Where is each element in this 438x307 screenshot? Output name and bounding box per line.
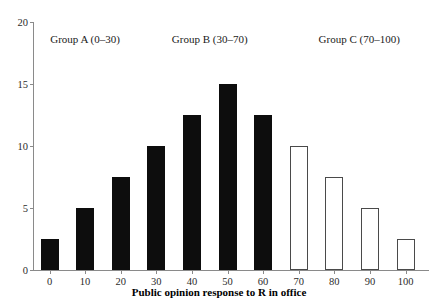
x-tick-mark [334, 270, 335, 274]
y-tick-label: 20 [18, 17, 34, 28]
bar-chart: 05101520 0102030405060708090100 Group A … [0, 0, 438, 307]
x-tick-mark [192, 270, 193, 274]
bar-50 [219, 84, 237, 270]
y-tick-label: 5 [23, 203, 33, 214]
y-tick-label: 15 [18, 79, 34, 90]
bar-70 [290, 146, 308, 270]
x-tick-mark [263, 270, 264, 274]
bar-40 [183, 115, 201, 270]
group-label-c: Group C (70–100) [319, 33, 400, 45]
bar-90 [361, 208, 379, 270]
x-tick-mark [406, 270, 407, 274]
group-label-a: Group A (0–30) [50, 33, 120, 45]
bar-0 [41, 239, 59, 270]
x-tick-mark [370, 270, 371, 274]
bar-60 [254, 115, 272, 270]
y-tick-label: 10 [18, 141, 34, 152]
bar-80 [325, 177, 343, 270]
group-label-b: Group B (30–70) [172, 33, 248, 45]
x-tick-mark [85, 270, 86, 274]
bar-30 [147, 146, 165, 270]
bar-20 [112, 177, 130, 270]
x-tick-mark [156, 270, 157, 274]
x-tick-mark [121, 270, 122, 274]
bar-100 [397, 239, 415, 270]
y-tick-label: 0 [23, 265, 33, 276]
x-tick-mark [228, 270, 229, 274]
x-axis-title: Public opinion response to R in office [0, 286, 438, 298]
x-tick-mark [299, 270, 300, 274]
bar-10 [76, 208, 94, 270]
x-tick-mark [50, 270, 51, 274]
